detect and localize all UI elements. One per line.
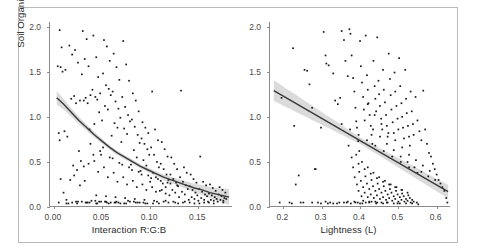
data-point [191, 196, 193, 198]
x-tick-mark [283, 206, 284, 209]
data-point [434, 179, 436, 181]
data-point [210, 199, 212, 201]
data-point [116, 66, 118, 68]
data-point [407, 161, 409, 163]
data-point [391, 192, 393, 194]
data-point [374, 114, 376, 116]
data-point [358, 171, 360, 173]
data-point [133, 149, 135, 151]
data-point [135, 202, 137, 204]
data-point [202, 181, 204, 183]
data-point [192, 189, 194, 191]
data-point [199, 156, 201, 158]
data-point [94, 123, 96, 125]
data-point [93, 154, 95, 156]
data-point [151, 91, 153, 93]
data-point [311, 202, 313, 204]
data-point [179, 176, 181, 178]
data-point [124, 197, 126, 199]
data-point [165, 186, 167, 188]
data-point [181, 191, 183, 193]
data-point [410, 202, 412, 204]
data-point [119, 162, 121, 164]
data-point [407, 192, 409, 194]
data-point [436, 174, 438, 176]
data-point [375, 190, 377, 192]
data-point [136, 157, 138, 159]
data-point [143, 159, 145, 161]
data-point [375, 111, 377, 113]
data-point [393, 203, 395, 205]
data-point [140, 170, 142, 172]
data-point [336, 203, 338, 205]
data-point [366, 74, 368, 76]
data-point [126, 133, 128, 135]
y-tick-label: 2.0 [29, 22, 41, 32]
data-point [401, 199, 403, 201]
data-point [367, 196, 369, 198]
data-point [90, 94, 92, 96]
data-point [370, 125, 372, 127]
data-point [408, 136, 410, 138]
data-point [176, 185, 178, 187]
data-point [76, 169, 78, 171]
data-point [142, 184, 144, 186]
data-point [385, 199, 387, 201]
data-point [355, 107, 357, 109]
data-point [123, 128, 125, 130]
data-point [365, 202, 367, 204]
data-point [365, 35, 367, 37]
x-tick-label: 0.3 [315, 212, 327, 222]
data-point [406, 112, 408, 114]
data-point [73, 175, 75, 177]
data-point [111, 135, 113, 137]
x-tick-mark [102, 206, 103, 209]
data-point [126, 184, 128, 186]
data-point [180, 90, 182, 92]
x-tick-label: 0.00 [45, 212, 62, 222]
data-point [68, 203, 70, 205]
data-point [411, 203, 413, 205]
data-point [348, 145, 350, 147]
data-point [358, 163, 360, 165]
data-point [135, 100, 137, 102]
data-point [120, 203, 122, 205]
data-point [158, 203, 160, 205]
data-point [225, 192, 227, 194]
data-point [337, 103, 339, 105]
data-point [121, 164, 123, 166]
data-point [407, 200, 409, 202]
data-point [411, 199, 413, 201]
data-point [398, 129, 400, 131]
data-point [424, 129, 426, 131]
data-point [214, 196, 216, 198]
data-point [354, 176, 356, 178]
data-point [366, 183, 368, 185]
data-point [148, 154, 150, 156]
x-tick-mark [150, 206, 151, 209]
data-point [382, 196, 384, 198]
data-point [149, 181, 151, 183]
data-point [215, 190, 217, 192]
data-point [409, 145, 411, 147]
data-point [311, 107, 313, 109]
y-tick-label: 0.0 [29, 202, 41, 212]
data-point [97, 76, 99, 78]
data-point [398, 201, 400, 203]
x-axis-title-right: Lightness (L) [239, 224, 458, 235]
data-point [164, 148, 166, 150]
data-point [150, 177, 152, 179]
data-point [345, 60, 347, 62]
data-point [401, 116, 403, 118]
data-point [138, 111, 140, 113]
data-point [184, 194, 186, 196]
data-point [100, 201, 102, 203]
data-point [77, 201, 79, 203]
data-point [100, 154, 102, 156]
data-point [381, 129, 383, 131]
data-point [360, 65, 362, 67]
data-point [117, 181, 119, 183]
plot-area-right [269, 22, 450, 207]
y-tick-mark [47, 207, 50, 208]
data-point [203, 202, 205, 204]
